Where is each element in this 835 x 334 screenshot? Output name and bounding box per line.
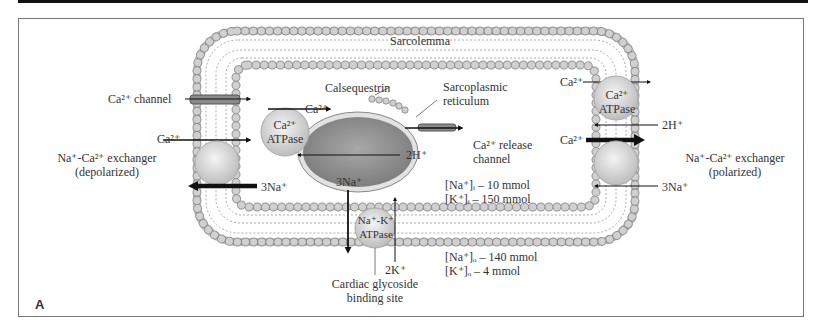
serca-name-1: Ca²⁺ (262, 118, 308, 132)
release-channel-2: channel (473, 152, 510, 166)
ncx-right-state: (polarized) (680, 165, 790, 179)
intra-k-conc: [K⁺]ᵢ – 150 mmol (445, 192, 531, 206)
sr-label-2: reticulum (443, 94, 489, 108)
pmca-name-1: Ca²⁺ (594, 88, 640, 102)
ncx-left-protein (195, 141, 239, 185)
ncx-right-na-label: 3Na⁺ (662, 180, 688, 194)
nak-name-2: ATPase (355, 227, 397, 241)
pmca-name-2: ATPase (594, 102, 640, 116)
ncx-right-name: Na⁺-Ca²⁺ exchanger (680, 151, 790, 165)
panel-label: A (35, 298, 44, 312)
extra-na-conc: [Na⁺]ₒ – 140 mmol (445, 250, 537, 264)
release-channel-1: Ca²⁺ release (473, 138, 532, 152)
serca-h-label: 2H⁺ (406, 148, 427, 162)
nak-na-label: 3Na⁺ (336, 175, 362, 189)
ncx-left-ca-label: Ca²⁺ (157, 132, 180, 146)
glycoside-label-2: binding site (325, 291, 425, 305)
pmca-ca-label: Ca²⁺ (560, 75, 583, 89)
ca-channel-label: Ca²⁺ channel (108, 92, 171, 106)
serca-name-2: ATPase (262, 132, 308, 146)
ncx-left-na-label: 3Na⁺ (261, 180, 287, 194)
extra-k-conc: [K⁺]ₒ – 4 mmol (445, 264, 520, 278)
intra-na-conc: [Na⁺]ᵢ – 10 mmol (445, 178, 530, 192)
calsequestrin-label: Calsequestrin (325, 81, 390, 95)
pmca-h-label: 2H⁺ (662, 118, 683, 132)
ncx-right-protein (594, 141, 638, 185)
ncx-right-ca-label: Ca²⁺ (560, 133, 583, 147)
serca-ca-label: Ca²⁺ (305, 102, 328, 116)
ncx-left-state: (depolarized) (52, 165, 162, 179)
sarcolemma-label: Sarcolemma (390, 34, 450, 48)
nak-name-1: Na⁺-K⁺ (355, 213, 397, 227)
nak-k-label: 2K⁺ (385, 263, 406, 277)
ncx-left-name: Na⁺-Ca²⁺ exchanger (52, 151, 162, 165)
sr-label-1: Sarcoplasmic (443, 80, 508, 94)
glycoside-label-1: Cardiac glycoside (325, 277, 425, 291)
